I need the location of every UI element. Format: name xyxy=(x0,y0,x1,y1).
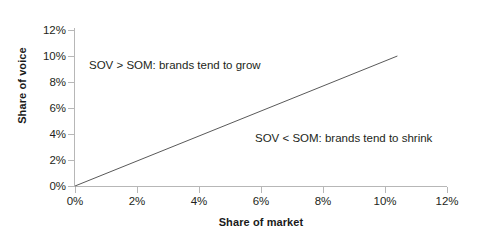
x-tick-label-2: 2% xyxy=(107,195,167,208)
x-tick-mark xyxy=(385,187,386,193)
y-tick-mark xyxy=(68,160,74,161)
y-axis-line xyxy=(74,28,75,187)
x-tick-label-6: 6% xyxy=(231,195,291,208)
x-tick-mark xyxy=(75,187,76,193)
x-tick-label-10: 10% xyxy=(355,195,415,208)
chart-canvas: Share of voice Share of market 12% 10% 8… xyxy=(0,0,490,245)
y-tick-mark xyxy=(68,186,74,187)
y-tick-label-12: 12% xyxy=(8,24,66,36)
y-tick-mark xyxy=(68,82,74,83)
x-tick-mark xyxy=(261,187,262,193)
y-tick-mark xyxy=(68,30,74,31)
x-tick-label-12: 12% xyxy=(417,195,477,208)
x-tick-mark xyxy=(137,187,138,193)
parity-line-series xyxy=(75,56,397,186)
y-tick-label-6: 6% xyxy=(8,102,66,114)
annotation-sov-greater-som: SOV > SOM: brands tend to grow xyxy=(89,58,261,72)
x-tick-mark xyxy=(323,187,324,193)
y-tick-label-group: 12% 10% 8% 6% 4% 2% 0% xyxy=(0,0,66,245)
y-tick-label-2: 2% xyxy=(8,154,66,166)
x-tick-mark xyxy=(447,187,448,193)
x-tick-mark xyxy=(199,187,200,193)
y-tick-mark xyxy=(68,56,74,57)
x-axis-title: Share of market xyxy=(75,216,447,228)
y-tick-label-8: 8% xyxy=(8,76,66,88)
y-tick-label-0: 0% xyxy=(8,180,66,192)
x-tick-label-0: 0% xyxy=(45,195,105,208)
x-tick-label-8: 8% xyxy=(293,195,353,208)
x-tick-label-4: 4% xyxy=(169,195,229,208)
y-tick-label-10: 10% xyxy=(8,50,66,62)
y-tick-mark xyxy=(68,134,74,135)
annotation-sov-less-som: SOV < SOM: brands tend to shrink xyxy=(255,131,432,145)
y-tick-label-4: 4% xyxy=(8,128,66,140)
y-tick-mark xyxy=(68,108,74,109)
